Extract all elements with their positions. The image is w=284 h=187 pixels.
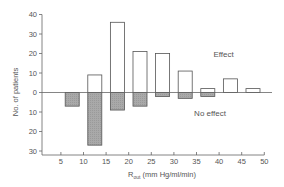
y-tick-label: 10 [29, 108, 37, 117]
no-effect-bars [65, 93, 215, 146]
x-tick-label: 45 [238, 157, 246, 166]
x-axis-label: Rout (mm Hg/ml/min) [128, 170, 196, 180]
y-tick-label: 40 [29, 10, 37, 19]
x-tick-label: 30 [170, 157, 178, 166]
y-tick-label: 20 [29, 49, 37, 58]
annotation-label: Effect [213, 50, 234, 59]
x-tick-label: 5 [59, 157, 63, 166]
x-tick-label: 15 [102, 157, 110, 166]
no-effect-bar [201, 93, 215, 97]
annotation-label: No effect [194, 109, 227, 118]
no-effect-bar [110, 93, 124, 111]
effect-bar [110, 22, 124, 92]
effect-bar [223, 79, 237, 93]
effect-bar [178, 71, 192, 92]
no-effect-bar [88, 93, 102, 146]
effect-bar [88, 75, 102, 93]
y-tick-label: 30 [29, 147, 37, 156]
y-tick-label: 0 [33, 88, 37, 97]
y-axis-label: No. of patients [11, 68, 20, 117]
no-effect-bar [156, 93, 170, 97]
no-effect-bar [178, 93, 192, 99]
y-tick-label: 30 [29, 30, 37, 39]
effect-bar [133, 52, 147, 93]
effect-bar [201, 89, 215, 93]
x-tick-label: 25 [147, 157, 155, 166]
x-axis-ticks: 5101520253035404550 [59, 152, 269, 166]
x-tick-label: 50 [260, 157, 268, 166]
y-tick-label: 20 [29, 127, 37, 136]
x-tick-label: 40 [215, 157, 223, 166]
no-effect-bar [133, 93, 147, 107]
effect-bar [156, 54, 170, 93]
x-tick-label: 20 [125, 157, 133, 166]
x-tick-label: 35 [192, 157, 200, 166]
bar-chart: 010203040102030 5101520253035404550 No. … [0, 0, 284, 187]
y-axis-ticks: 010203040102030 [29, 10, 42, 156]
effect-bars [88, 22, 260, 92]
no-effect-bar [65, 93, 79, 107]
y-tick-label: 10 [29, 69, 37, 78]
x-tick-label: 10 [79, 157, 87, 166]
effect-bar [246, 89, 260, 93]
